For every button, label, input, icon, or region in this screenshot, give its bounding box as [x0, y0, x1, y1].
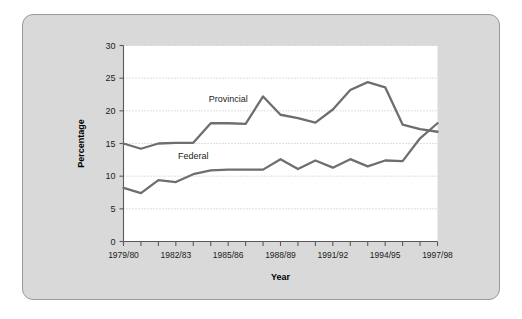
series-label-federal: Federal: [178, 151, 209, 161]
x-tick-label-12: 1991/92: [317, 250, 348, 260]
y-tick-label-0: 0: [110, 237, 115, 247]
y-tick-label-30: 30: [105, 41, 115, 51]
x-tick-label-6: 1985/86: [213, 250, 244, 260]
screenshot-root: 0510152025301979/801982/831985/861988/89…: [0, 0, 522, 319]
x-tick-label-15: 1994/95: [370, 250, 401, 260]
x-tick-label-18: 1997/98: [422, 250, 453, 260]
y-tick-label-15: 15: [105, 139, 115, 149]
y-tick-label-20: 20: [105, 106, 115, 116]
x-tick-label-9: 1988/89: [265, 250, 296, 260]
line-chart: 0510152025301979/801982/831985/861988/89…: [0, 0, 522, 319]
y-tick-label-25: 25: [105, 73, 115, 83]
series-label-provincial: Provincial: [209, 94, 248, 104]
y-axis-title: Percentage: [76, 119, 86, 168]
x-tick-label-0: 1979/80: [108, 250, 139, 260]
y-tick-label-10: 10: [105, 171, 115, 181]
x-axis-title: Year: [271, 272, 291, 282]
y-tick-label-5: 5: [110, 204, 115, 214]
x-tick-label-3: 1982/83: [160, 250, 191, 260]
